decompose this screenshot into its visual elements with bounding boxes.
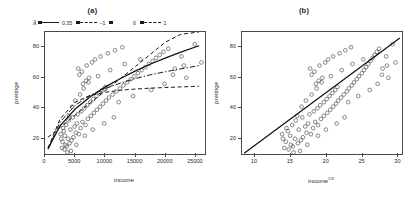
- x-tick-label: 25000: [182, 158, 208, 164]
- y-tick-mark: [238, 138, 242, 139]
- y-tick-mark: [238, 107, 242, 108]
- curve-3: [48, 32, 199, 137]
- x-tick-mark: [135, 153, 136, 157]
- x-tick-mark: [362, 153, 363, 157]
- x-tick-label: 15000: [122, 158, 148, 164]
- x-tick-label: 20000: [152, 158, 178, 164]
- curve-0: [48, 46, 199, 149]
- legend-lambda-symbol: λ: [33, 19, 36, 26]
- legend-entry-0: 0.35: [38, 19, 72, 26]
- scatter-points: [59, 42, 203, 154]
- x-tick-mark: [254, 153, 255, 157]
- panel-a-title: (a): [0, 6, 197, 15]
- x-tick-mark: [195, 153, 196, 157]
- x-tick-mark: [290, 153, 291, 157]
- x-tick-label: 0: [31, 158, 57, 164]
- legend-key-solid-icon: [38, 19, 59, 26]
- legend-key-dash-icon: [76, 19, 97, 26]
- x-tick-label: 5000: [61, 158, 87, 164]
- plot-area-a: [44, 31, 206, 155]
- x-tick-mark: [74, 153, 75, 157]
- legend-entry-2: 0: [109, 19, 135, 26]
- y-tick-mark: [238, 77, 242, 78]
- x-tick-mark: [397, 153, 398, 157]
- legend: λ 0.35 −1 0: [33, 17, 205, 28]
- y-tick-label: 20: [222, 135, 236, 141]
- legend-label-3: 1: [163, 20, 166, 26]
- x-tick-label: 20: [313, 158, 339, 164]
- legend-key-dashdot-icon: [109, 19, 130, 26]
- y-tick-mark: [41, 107, 45, 108]
- x-tick-mark: [104, 153, 105, 157]
- x-tick-label: 30: [384, 158, 410, 164]
- x-tick-label: 10: [241, 158, 267, 164]
- x-axis-label-b-base: income: [308, 177, 328, 184]
- legend-label-2: 0: [133, 20, 136, 26]
- legend-label-1: −1: [100, 20, 106, 26]
- plot-area-b: [241, 31, 403, 155]
- y-tick-mark: [41, 138, 45, 139]
- y-axis-label-a: prestige: [12, 82, 19, 104]
- y-tick-mark: [41, 77, 45, 78]
- x-axis-label-a: income: [44, 176, 204, 183]
- x-tick-mark: [44, 153, 45, 157]
- scatter-points: [280, 42, 397, 154]
- panel-b: (b) prestige income1/3 20406080 10152025…: [209, 0, 411, 198]
- y-tick-label: 40: [222, 104, 236, 110]
- y-axis-label-b: prestige: [212, 82, 219, 104]
- y-tick-label: 60: [222, 74, 236, 80]
- y-tick-mark: [238, 46, 242, 47]
- y-tick-label: 80: [25, 43, 39, 49]
- x-tick-label: 25: [349, 158, 375, 164]
- curve-0: [244, 38, 400, 153]
- x-tick-label: 15: [277, 158, 303, 164]
- x-tick-mark: [326, 153, 327, 157]
- panel-a: (a) λ 0.35 −1 0: [0, 0, 209, 198]
- x-axis-label-b: income1/3: [241, 176, 401, 184]
- figure-container: (a) λ 0.35 −1 0: [0, 0, 411, 198]
- x-tick-label: 10000: [91, 158, 117, 164]
- y-tick-label: 80: [222, 43, 236, 49]
- legend-entry-3: 1: [140, 19, 166, 26]
- y-tick-label: 40: [25, 104, 39, 110]
- legend-entry-1: −1: [76, 19, 105, 26]
- y-tick-label: 20: [25, 135, 39, 141]
- x-axis-label-b-exponent: 1/3: [328, 176, 334, 181]
- x-tick-mark: [165, 153, 166, 157]
- legend-key-dash2-icon: [140, 19, 161, 26]
- panel-b-title: (b): [203, 6, 405, 15]
- legend-label-0: 0.35: [62, 20, 72, 26]
- y-tick-mark: [41, 46, 45, 47]
- y-tick-label: 60: [25, 74, 39, 80]
